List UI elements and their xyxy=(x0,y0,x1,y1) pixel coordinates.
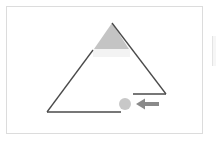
marker-circle xyxy=(119,98,131,110)
diagram-canvas xyxy=(0,0,216,142)
left-arrow-icon xyxy=(136,99,159,110)
triangle-diagram xyxy=(0,0,216,142)
triangle-left-edge xyxy=(47,50,93,112)
triangle-apex-shaded-region xyxy=(94,23,129,49)
triangle-right-edge xyxy=(112,23,166,94)
shade-fade xyxy=(93,49,130,57)
